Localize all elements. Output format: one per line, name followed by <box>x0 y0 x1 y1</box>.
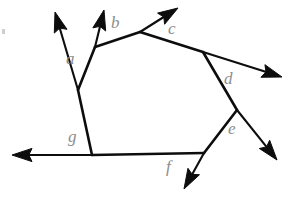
polygon-edges <box>78 32 237 155</box>
ray-e-shaft <box>237 110 267 147</box>
vertex-label-c: c <box>168 20 176 37</box>
ray-f-arrowhead-icon <box>184 168 199 189</box>
vertex-label-b: b <box>111 14 120 31</box>
ray-b <box>93 10 106 47</box>
vertex-label-d: d <box>224 70 233 87</box>
vertex-label-f: f <box>166 158 171 175</box>
ray-e-arrowhead-icon <box>259 140 277 160</box>
vertex-label-g: g <box>68 128 77 145</box>
ray-f <box>184 153 204 189</box>
polygon-edge-fg <box>92 153 204 155</box>
ray-f-shaft <box>192 153 204 175</box>
polygon-edge-bc <box>95 32 140 47</box>
ray-e <box>237 110 277 160</box>
vertex-label-e: e <box>228 120 236 137</box>
figure-canvas: abcdefg <box>0 0 300 199</box>
ray-c-shaft <box>140 17 164 32</box>
stray-speck <box>2 29 5 34</box>
polygon-diagram-svg <box>0 0 300 199</box>
ray-b-shaft <box>95 26 100 47</box>
ray-g-arrowhead-icon <box>12 148 32 161</box>
polygon-edge-ga <box>78 90 92 155</box>
vertex-label-a: a <box>66 50 75 67</box>
ray-g <box>12 148 92 161</box>
polygon-edge-ab <box>78 47 95 90</box>
